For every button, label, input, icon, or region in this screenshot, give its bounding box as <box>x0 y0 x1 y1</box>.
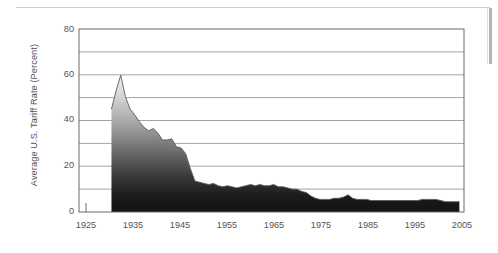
tariff-rate-area-chart: Average U.S. Tariff Rate (Percent) 80 60… <box>0 0 498 253</box>
figure-page: Average U.S. Tariff Rate (Percent) 80 60… <box>0 0 498 253</box>
plot-svg <box>0 0 498 253</box>
